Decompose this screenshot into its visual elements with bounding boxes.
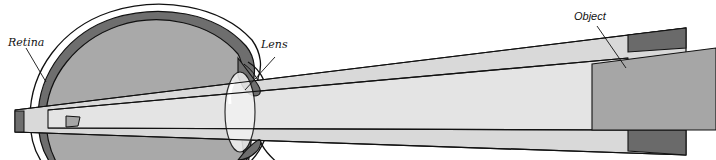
object-label: Object xyxy=(574,11,606,22)
object-top-dark xyxy=(628,28,686,52)
eye-diagram: Retina Lens Object xyxy=(0,0,716,160)
retina-label: Retina xyxy=(8,37,44,48)
retina-leader xyxy=(26,48,46,82)
lens-label: Lens xyxy=(261,39,288,50)
object-bottom-dark xyxy=(628,130,686,155)
eye-diagram-svg xyxy=(0,0,716,160)
